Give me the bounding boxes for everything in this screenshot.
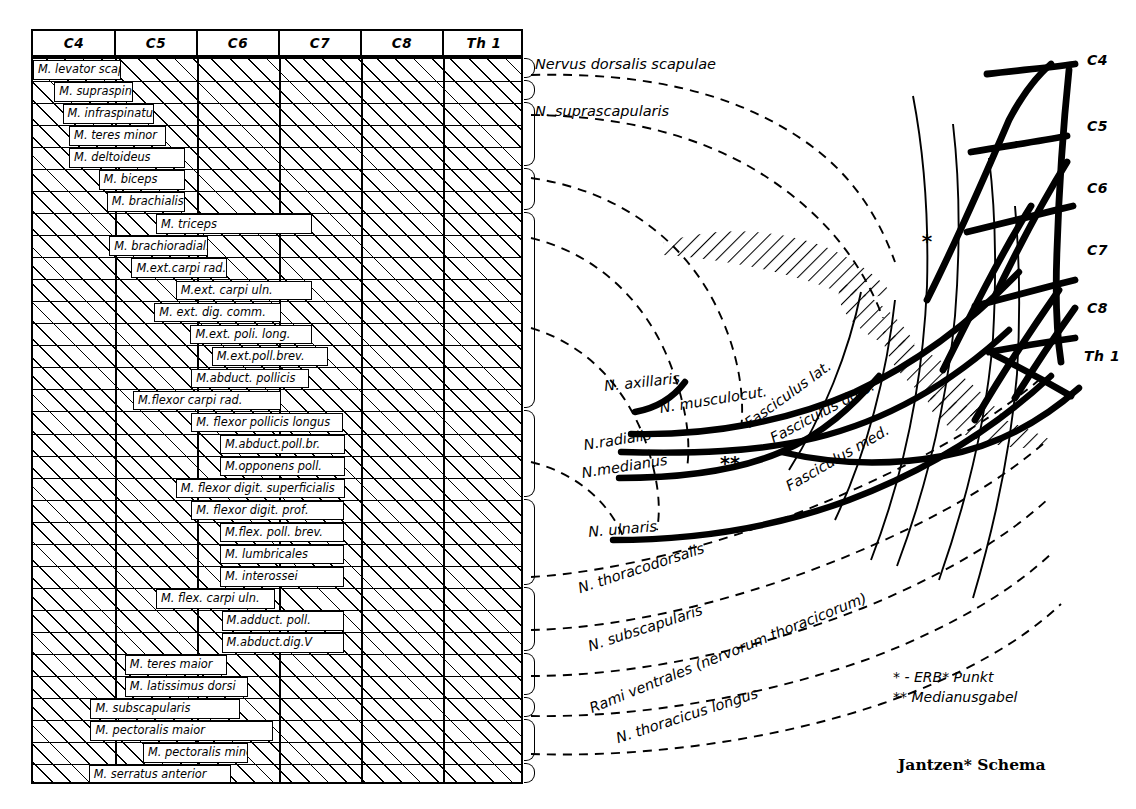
root-label-c8: C8 bbox=[1087, 300, 1108, 316]
muscle-bar-label: M. supraspinatus bbox=[55, 86, 133, 97]
muscle-bar-label: M.flexor carpi rad. bbox=[134, 395, 242, 406]
muscle-bar: M. flexor digit. superficialis bbox=[176, 479, 345, 499]
table-header-row: C4C5C6C7C8Th 1 bbox=[31, 29, 523, 57]
muscle-bar: M. pectoralis minor bbox=[143, 743, 248, 763]
muscle-innervation-table: C4C5C6C7C8Th 1 M. levator scapulaeM. sup… bbox=[31, 29, 523, 784]
muscle-bar: M.opponens poll. bbox=[220, 457, 345, 477]
brachial-plexus-drawing: * ** Nervus dorsalis scapulae N. suprasc… bbox=[523, 0, 1136, 809]
root-label-c6: C6 bbox=[1087, 180, 1108, 196]
row-separator bbox=[33, 742, 521, 743]
column-header-th1: Th 1 bbox=[443, 31, 525, 55]
muscle-bar: M. flexor pollicis longus bbox=[191, 413, 343, 433]
muscle-bar-label: M.opponens poll. bbox=[221, 461, 322, 472]
muscle-bar-label: M.flex. poll. brev. bbox=[221, 527, 323, 538]
muscle-bar: M.ext. poli. long. bbox=[190, 325, 311, 345]
muscle-bar: M. ext. dig. comm. bbox=[154, 303, 280, 323]
muscle-bar: M. teres minor bbox=[69, 126, 166, 146]
muscle-bar-label: M. serratus anterior bbox=[90, 769, 207, 780]
muscle-bar: M.ext.carpi rad.(l+b) bbox=[131, 258, 227, 278]
column-header-c8: C8 bbox=[361, 31, 443, 55]
muscle-bar: M. triceps bbox=[156, 214, 312, 234]
muscle-bar-label: M. flex. carpi uln. bbox=[157, 593, 260, 604]
muscle-bar: M.abduct.poll.br. bbox=[220, 435, 345, 455]
muscle-bar-label: M. triceps bbox=[157, 219, 217, 230]
column-header-c7: C7 bbox=[279, 31, 361, 55]
column-separator bbox=[443, 59, 445, 782]
muscle-bar-label: M. deltoideus bbox=[70, 152, 150, 163]
muscle-bar-label: M. ext. dig. comm. bbox=[155, 307, 265, 318]
row-separator bbox=[33, 676, 521, 677]
muscle-bar-label: M.ext.poll.brev. bbox=[213, 351, 305, 362]
muscle-bar: M. brachioradial. bbox=[109, 236, 208, 256]
muscle-bar: M.flex. poll. brev. bbox=[220, 523, 344, 543]
muscle-bar-label: M.abduct.poll.br. bbox=[221, 439, 320, 450]
root-label-th1: Th 1 bbox=[1084, 348, 1120, 364]
table-grid: M. levator scapulaeM. supraspinatusM. in… bbox=[31, 57, 523, 784]
muscle-bar-label: M. pectoralis maior bbox=[91, 725, 204, 736]
muscle-bar: M.ext.poll.brev. bbox=[212, 347, 328, 367]
muscle-bar: M. lumbricales bbox=[220, 545, 344, 565]
muscle-bar-label: M. biceps bbox=[100, 174, 158, 185]
muscle-bar-label: M. teres maior bbox=[126, 659, 213, 670]
muscle-bar: M.abduct. pollicis bbox=[191, 369, 309, 389]
muscle-bar-label: M. flexor digit. superficialis bbox=[177, 483, 335, 494]
root-label-c7: C7 bbox=[1087, 242, 1108, 258]
row-separator bbox=[33, 257, 521, 258]
muscle-bar: M. levator scapulae bbox=[33, 60, 121, 80]
muscle-bar-label: M.ext.carpi rad.(l+b) bbox=[132, 263, 227, 274]
root-label-c5: C5 bbox=[1087, 118, 1108, 134]
muscle-bar: M. latissimus dorsi bbox=[125, 677, 248, 697]
row-separator bbox=[33, 235, 521, 236]
column-header-c5: C5 bbox=[115, 31, 197, 55]
muscle-bar-label: M.adduct. poll. bbox=[223, 615, 311, 626]
schema-signature: Jantzen* Schema bbox=[898, 755, 1045, 774]
muscle-bar-label: M. brachialis bbox=[108, 196, 184, 207]
row-separator bbox=[33, 654, 521, 655]
root-label-c4: C4 bbox=[1087, 52, 1108, 68]
muscle-bar: M.ext. carpi uln. bbox=[176, 281, 312, 301]
muscle-bar-label: M. levator scapulae bbox=[34, 64, 121, 75]
row-separator bbox=[33, 588, 521, 589]
muscle-bar-label: M. lumbricales bbox=[221, 549, 308, 560]
muscle-bar-label: M. interossei bbox=[221, 571, 298, 582]
header-divider bbox=[196, 31, 198, 55]
legend: * - ERB* Punkt ** Medianusgabel bbox=[893, 667, 1017, 707]
muscle-bar-label: M.abduct. pollicis bbox=[192, 373, 295, 384]
column-header-c4: C4 bbox=[33, 31, 115, 55]
header-divider bbox=[360, 31, 362, 55]
muscle-bar: M. serratus anterior bbox=[89, 765, 232, 784]
muscle-bar: M. brachialis bbox=[107, 192, 185, 212]
erb-point-marker: * bbox=[922, 229, 933, 253]
muscle-bar-label: M.abduct.dig.V bbox=[223, 637, 313, 648]
muscle-bar-label: M. infraspinatus bbox=[64, 108, 155, 119]
muscle-bar: M. biceps bbox=[99, 170, 185, 190]
muscle-bar-label: M. subscapularis bbox=[91, 703, 190, 714]
header-divider bbox=[442, 31, 444, 55]
jantzen-schema-diagram: C4 C4C5C6C7C8Th 1 M. levator scapulaeM. … bbox=[0, 0, 1136, 809]
muscle-bar: M. teres maior bbox=[125, 655, 228, 675]
muscle-bar: M.flexor carpi rad. bbox=[133, 391, 281, 411]
medianusgabel-marker: ** bbox=[720, 452, 740, 474]
muscle-bar-label: M. flexor pollicis longus bbox=[192, 417, 330, 428]
muscle-bar: M. subscapularis bbox=[90, 699, 239, 719]
nerve-label-n-dorsalis-scapulae: Nervus dorsalis scapulae bbox=[535, 56, 716, 72]
muscle-bar: M.adduct. poll. bbox=[222, 611, 344, 631]
muscle-bar: M. flex. carpi uln. bbox=[156, 589, 275, 609]
column-header-c6: C6 bbox=[197, 31, 279, 55]
muscle-bar: M. interossei bbox=[220, 567, 344, 587]
muscle-bar: M. pectoralis maior bbox=[90, 721, 273, 741]
muscle-bar-label: M. brachioradial. bbox=[110, 241, 208, 252]
legend-medianusgabel: ** Medianusgabel bbox=[893, 687, 1017, 707]
column-separator bbox=[361, 59, 363, 782]
muscle-bar: M. supraspinatus bbox=[54, 82, 133, 102]
nerve-label-n-suprascapularis: N. suprascapularis bbox=[535, 103, 669, 119]
muscle-bar-label: M.ext. carpi uln. bbox=[177, 285, 273, 296]
muscle-bar-label: M.ext. poli. long. bbox=[191, 329, 290, 340]
muscle-bar: M.abduct.dig.V bbox=[222, 633, 344, 653]
muscle-bar-label: M. latissimus dorsi bbox=[126, 681, 236, 692]
muscle-bar-label: M. pectoralis minor bbox=[144, 747, 248, 758]
legend-erb-point: * - ERB* Punkt bbox=[893, 667, 1017, 687]
muscle-bar: M. deltoideus bbox=[69, 148, 185, 168]
header-divider bbox=[278, 31, 280, 55]
muscle-bar-label: M. flexor digit. prof. bbox=[192, 505, 308, 516]
